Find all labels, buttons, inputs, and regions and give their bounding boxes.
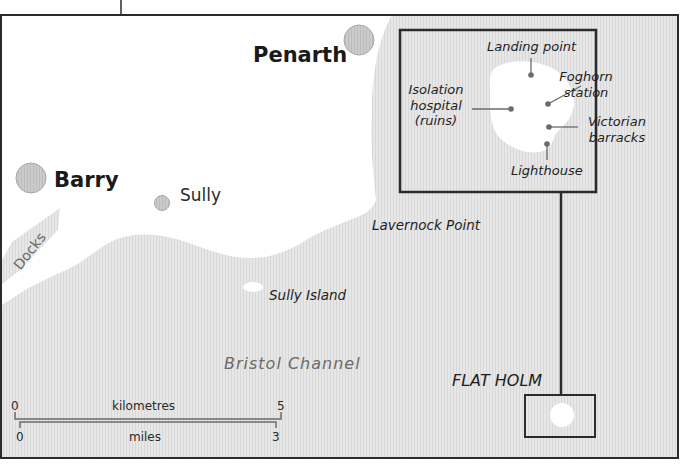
town-label-barry: Barry bbox=[54, 170, 119, 191]
scale-mi-label: miles bbox=[129, 431, 161, 443]
inset-label-victorian-line2: barracks bbox=[588, 130, 646, 146]
point-isolation bbox=[508, 106, 514, 112]
point-landing bbox=[528, 72, 534, 78]
town-label-penarth: Penarth bbox=[253, 45, 347, 66]
town-marker-sully bbox=[155, 196, 170, 211]
inset-label-isolation-hospital: Isolation hospital (ruins) bbox=[408, 82, 463, 129]
inset-label-isolation-line2: hospital bbox=[408, 98, 463, 114]
inset-label-foghorn: Foghorn station bbox=[559, 69, 612, 100]
sully-island-shape bbox=[243, 282, 263, 292]
scale-mi-end: 3 bbox=[272, 431, 280, 443]
inset-label-victorian-line1: Victorian bbox=[588, 114, 646, 130]
label-lavernock-point: Lavernock Point bbox=[372, 219, 480, 233]
inset-label-landing-point: Landing point bbox=[487, 39, 576, 55]
scale-km-label: kilometres bbox=[112, 400, 175, 412]
label-bristol-channel: Bristol Channel bbox=[224, 356, 361, 372]
scale-km-start: 0 bbox=[11, 400, 19, 412]
inset-label-isolation-line3: (ruins) bbox=[408, 113, 463, 129]
label-sully-island: Sully Island bbox=[269, 289, 346, 303]
town-label-sully: Sully bbox=[180, 187, 221, 204]
point-victorian bbox=[546, 124, 552, 130]
inset-label-foghorn-line2: station bbox=[559, 85, 612, 101]
flat-holm-island-shape bbox=[550, 403, 574, 427]
inset-label-victorian-barracks: Victorian barracks bbox=[588, 114, 646, 145]
point-lighthouse bbox=[544, 141, 550, 147]
town-marker-penarth bbox=[344, 25, 374, 55]
point-foghorn bbox=[545, 101, 551, 107]
scale-mi-start: 0 bbox=[16, 431, 24, 443]
town-marker-barry bbox=[16, 163, 46, 193]
scale-km-end: 5 bbox=[277, 400, 285, 412]
inset-label-isolation-line1: Isolation bbox=[408, 82, 463, 98]
label-flat-holm: FLAT HOLM bbox=[452, 373, 542, 389]
inset-label-foghorn-line1: Foghorn bbox=[559, 69, 612, 85]
inset-label-lighthouse: Lighthouse bbox=[511, 163, 583, 179]
